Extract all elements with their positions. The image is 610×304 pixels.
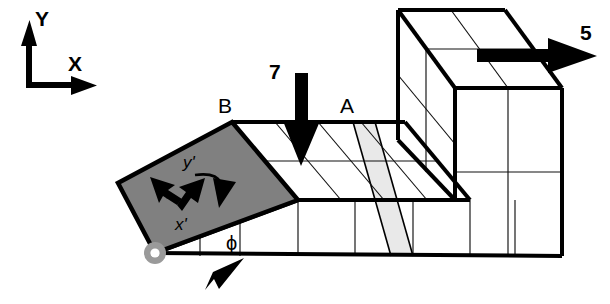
x-axis-label: X (68, 52, 82, 75)
angle-phi-label: ϕ (226, 232, 237, 254)
pivot-inner-hole (150, 248, 159, 257)
load-5-label: 5 (580, 21, 592, 44)
local-x-axis-label: x' (174, 215, 188, 234)
y-axis-label: Y (35, 7, 49, 30)
local-y-axis-label: y' (182, 153, 196, 172)
point-label-A: A (340, 94, 354, 117)
mechanics-diagram: Y X (0, 0, 610, 304)
point-label-B: B (218, 94, 232, 117)
pin-support (144, 242, 166, 264)
load-7-label: 7 (269, 60, 281, 83)
